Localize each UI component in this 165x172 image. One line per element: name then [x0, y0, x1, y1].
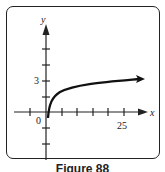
y-axis-label: y: [40, 14, 46, 25]
origin-label: 0: [36, 115, 41, 126]
y-tick-3: 3: [34, 75, 39, 86]
y-axis-arrow-icon: [43, 24, 50, 35]
x-axis-label: x: [149, 107, 155, 118]
figure-caption: Figure 88: [0, 162, 165, 172]
chart-plot: y x 3 0 25: [0, 0, 165, 172]
x-axis-arrow-icon: [138, 109, 148, 116]
x-tick-25: 25: [117, 120, 127, 131]
